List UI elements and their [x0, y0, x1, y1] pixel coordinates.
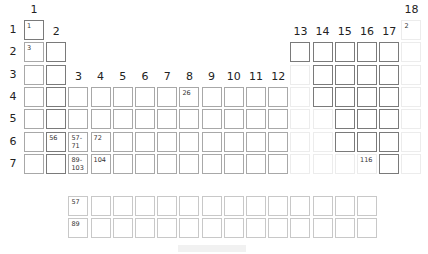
- element-cell-g13-p7[interactable]: [290, 154, 310, 174]
- element-cell-g15-p4[interactable]: [335, 87, 355, 107]
- element-cell-g13-p2[interactable]: [290, 42, 310, 62]
- element-cell-g18-p6[interactable]: [401, 132, 421, 152]
- element-cell-g4-p5[interactable]: [91, 109, 111, 129]
- lanthanide-cell[interactable]: [157, 196, 177, 216]
- element-cell-g5-p7[interactable]: [113, 154, 133, 174]
- element-cell-g15-p7[interactable]: [335, 154, 355, 174]
- element-cell-g17-p4[interactable]: [379, 87, 399, 107]
- element-cell-g10-p4[interactable]: [224, 87, 244, 107]
- element-cell-g16-p5[interactable]: [357, 109, 377, 129]
- lanthanide-cell[interactable]: [202, 196, 222, 216]
- element-cell-g6-p5[interactable]: [135, 109, 155, 129]
- element-cell-g2-p2[interactable]: [46, 42, 66, 62]
- element-cell-g7-p5[interactable]: [157, 109, 177, 129]
- element-cell-g1-p3[interactable]: [24, 65, 44, 85]
- actinide-cell[interactable]: [202, 218, 222, 238]
- element-cell-g3-p7[interactable]: 89- 103: [68, 154, 88, 174]
- element-cell-g17-p3[interactable]: [379, 65, 399, 85]
- element-cell-g4-p6[interactable]: 72: [91, 132, 111, 152]
- element-cell-g15-p3[interactable]: [335, 65, 355, 85]
- element-cell-g1-p7[interactable]: [24, 154, 44, 174]
- element-cell-g8-p6[interactable]: [179, 132, 199, 152]
- element-cell-g11-p6[interactable]: [246, 132, 266, 152]
- element-cell-g13-p6[interactable]: [290, 132, 310, 152]
- element-cell-g16-p2[interactable]: [357, 42, 377, 62]
- element-cell-g1-p6[interactable]: [24, 132, 44, 152]
- element-cell-g3-p6[interactable]: 57- 71: [68, 132, 88, 152]
- element-cell-g5-p5[interactable]: [113, 109, 133, 129]
- lanthanide-cell[interactable]: [335, 196, 355, 216]
- element-cell-g2-p3[interactable]: [46, 65, 66, 85]
- actinide-cell[interactable]: [335, 218, 355, 238]
- lanthanide-cell[interactable]: [313, 196, 333, 216]
- element-cell-g13-p3[interactable]: [290, 65, 310, 85]
- element-cell-g1-p5[interactable]: [24, 109, 44, 129]
- element-cell-g10-p5[interactable]: [224, 109, 244, 129]
- element-cell-g18-p4[interactable]: [401, 87, 421, 107]
- lanthanide-cell[interactable]: [224, 196, 244, 216]
- element-cell-g8-p5[interactable]: [179, 109, 199, 129]
- lanthanide-cell[interactable]: [290, 196, 310, 216]
- element-cell-g4-p4[interactable]: [91, 87, 111, 107]
- element-cell-g9-p4[interactable]: [202, 87, 222, 107]
- element-cell-g10-p6[interactable]: [224, 132, 244, 152]
- element-cell-g5-p4[interactable]: [113, 87, 133, 107]
- element-cell-g3-p4[interactable]: [68, 87, 88, 107]
- actinide-cell[interactable]: [290, 218, 310, 238]
- element-cell-g7-p6[interactable]: [157, 132, 177, 152]
- element-cell-g16-p7[interactable]: 116: [357, 154, 377, 174]
- actinide-cell[interactable]: [313, 218, 333, 238]
- element-cell-g5-p6[interactable]: [113, 132, 133, 152]
- actinide-cell[interactable]: [268, 218, 288, 238]
- element-cell-g18-p5[interactable]: [401, 109, 421, 129]
- element-cell-g12-p5[interactable]: [268, 109, 288, 129]
- element-cell-g3-p5[interactable]: [68, 109, 88, 129]
- element-cell-g15-p6[interactable]: [335, 132, 355, 152]
- actinide-cell[interactable]: 89: [68, 218, 88, 238]
- element-cell-g10-p7[interactable]: [224, 154, 244, 174]
- element-cell-g14-p7[interactable]: [313, 154, 333, 174]
- actinide-cell[interactable]: [91, 218, 111, 238]
- element-cell-g12-p6[interactable]: [268, 132, 288, 152]
- actinide-cell[interactable]: [224, 218, 244, 238]
- element-cell-g13-p4[interactable]: [290, 87, 310, 107]
- element-cell-g6-p4[interactable]: [135, 87, 155, 107]
- element-cell-g14-p2[interactable]: [313, 42, 333, 62]
- element-cell-g16-p3[interactable]: [357, 65, 377, 85]
- element-cell-g2-p6[interactable]: 56: [46, 132, 66, 152]
- lanthanide-cell[interactable]: [179, 196, 199, 216]
- element-cell-g9-p5[interactable]: [202, 109, 222, 129]
- element-cell-g1-p1[interactable]: 1: [24, 20, 44, 40]
- element-cell-g11-p4[interactable]: [246, 87, 266, 107]
- element-cell-g13-p5[interactable]: [290, 109, 310, 129]
- element-cell-g7-p4[interactable]: [157, 87, 177, 107]
- actinide-cell[interactable]: [135, 218, 155, 238]
- actinide-cell[interactable]: [357, 218, 377, 238]
- actinide-cell[interactable]: [113, 218, 133, 238]
- lanthanide-cell[interactable]: [91, 196, 111, 216]
- element-cell-g18-p3[interactable]: [401, 65, 421, 85]
- element-cell-g18-p1[interactable]: 2: [401, 20, 421, 40]
- actinide-cell[interactable]: [157, 218, 177, 238]
- element-cell-g9-p6[interactable]: [202, 132, 222, 152]
- element-cell-g12-p4[interactable]: [268, 87, 288, 107]
- element-cell-g17-p6[interactable]: [379, 132, 399, 152]
- element-cell-g18-p7[interactable]: [401, 154, 421, 174]
- lanthanide-cell[interactable]: [246, 196, 266, 216]
- element-cell-g6-p7[interactable]: [135, 154, 155, 174]
- lanthanide-cell[interactable]: [113, 196, 133, 216]
- lanthanide-cell[interactable]: [357, 196, 377, 216]
- element-cell-g6-p6[interactable]: [135, 132, 155, 152]
- element-cell-g2-p5[interactable]: [46, 109, 66, 129]
- element-cell-g9-p7[interactable]: [202, 154, 222, 174]
- element-cell-g17-p5[interactable]: [379, 109, 399, 129]
- element-cell-g2-p4[interactable]: [46, 87, 66, 107]
- element-cell-g15-p2[interactable]: [335, 42, 355, 62]
- element-cell-g18-p2[interactable]: [401, 42, 421, 62]
- element-cell-g11-p5[interactable]: [246, 109, 266, 129]
- element-cell-g2-p7[interactable]: [46, 154, 66, 174]
- actinide-cell[interactable]: [246, 218, 266, 238]
- element-cell-g7-p7[interactable]: [157, 154, 177, 174]
- element-cell-g14-p6[interactable]: [313, 132, 333, 152]
- element-cell-g14-p4[interactable]: [313, 87, 333, 107]
